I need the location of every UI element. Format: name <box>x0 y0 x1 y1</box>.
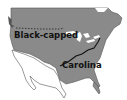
label-black-capped: Black-capped <box>14 30 78 40</box>
range-map: Black-capped Carolina <box>0 0 127 100</box>
label-carolina: Carolina <box>62 60 102 70</box>
